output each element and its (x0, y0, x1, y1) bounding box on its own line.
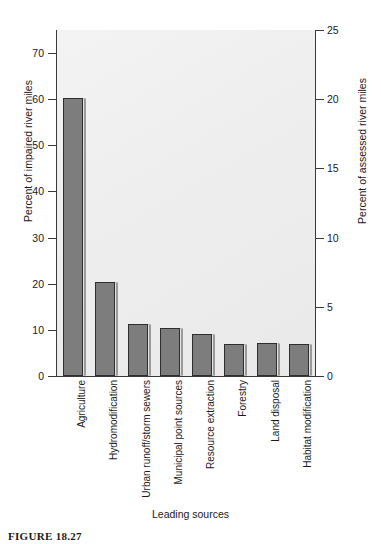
bars-layer (57, 30, 315, 376)
bar (224, 344, 244, 376)
bar (128, 324, 148, 376)
y-axis-right-tick (316, 307, 324, 308)
y-axis-right-title: Percent of assessed river miles (356, 61, 368, 241)
y-axis-left-tick-label: 20 (4, 279, 44, 289)
y-axis-left-tick (48, 145, 56, 146)
x-axis-title: Leading sources (0, 508, 381, 520)
y-axis-right-tick (316, 30, 324, 31)
y-axis-left-tick (48, 330, 56, 331)
y-axis-left-tick (48, 53, 56, 54)
bar (289, 344, 309, 376)
y-axis-left-tick (48, 284, 56, 285)
y-axis-left-tick (48, 238, 56, 239)
bar (63, 98, 83, 376)
y-axis-left-tick (48, 191, 56, 192)
bar (95, 282, 115, 376)
y-axis-left-title: Percent of impaired river miles (22, 61, 34, 241)
y-axis-right-tick-label: 5 (327, 302, 367, 312)
x-axis-category-label: Agriculture (77, 380, 87, 428)
x-axis-line (56, 376, 316, 377)
figure-caption: FIGURE 18.27 (8, 530, 82, 542)
x-axis-category-label: Habitat modification (303, 380, 313, 468)
y-axis-right-line (315, 30, 316, 377)
y-axis-right-tick (316, 376, 324, 377)
bar (257, 343, 277, 376)
y-axis-right-tick (316, 168, 324, 169)
y-axis-right-tick (316, 99, 324, 100)
y-axis-right-tick-label: 25 (327, 25, 367, 35)
y-axis-left-tick (48, 99, 56, 100)
bar (192, 334, 212, 376)
x-axis-category-labels: AgricultureHydromodificationUrban runoff… (57, 380, 315, 505)
x-axis-category-label: Hydromodification (109, 380, 119, 460)
y-axis-right-tick-label: 0 (327, 371, 367, 381)
x-axis-category-label: Land disposal (271, 380, 281, 442)
y-axis-left-tick-label: 0 (4, 371, 44, 381)
x-axis-category-label: Urban runoff/storm sewers (142, 380, 152, 498)
y-axis-left-tick-label: 10 (4, 325, 44, 335)
y-axis-right-tick (316, 238, 324, 239)
x-axis-category-label: Forestry (238, 380, 248, 417)
x-axis-category-label: Resource extraction (206, 380, 216, 469)
y-axis-left-tick-label: 70 (4, 48, 44, 58)
bar (160, 328, 180, 376)
figure-container: 010203040506070 0510152025 AgricultureHy… (0, 0, 381, 544)
x-axis-category-label: Municipal point sources (174, 380, 184, 485)
y-axis-left-tick (48, 376, 56, 377)
